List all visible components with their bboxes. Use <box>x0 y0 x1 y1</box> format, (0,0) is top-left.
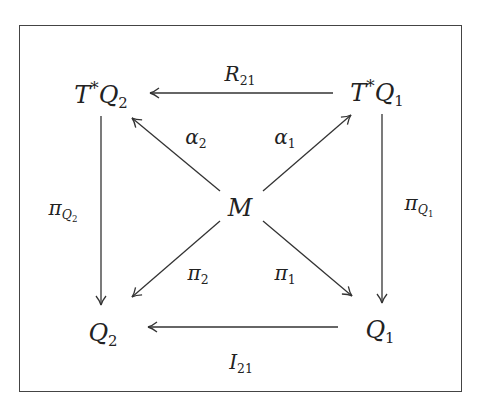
node-M: M <box>228 194 253 222</box>
label-pi2: π2 <box>187 261 208 285</box>
label-alpha1: α1 <box>274 125 295 149</box>
label-R21: R21 <box>225 62 256 86</box>
node-TQ1: T*Q1 <box>350 79 404 107</box>
node-Q1: Q1 <box>365 316 394 344</box>
label-piQ1: πQ1 <box>405 191 434 215</box>
label-pi1: π1 <box>274 261 295 285</box>
label-I21: I21 <box>229 350 253 374</box>
label-piQ2: πQ2 <box>49 196 78 220</box>
arrow-alpha2 <box>132 118 220 191</box>
label-alpha2: α2 <box>185 125 206 149</box>
node-TQ2: T*Q2 <box>74 81 128 109</box>
node-Q2: Q2 <box>88 319 117 347</box>
commutative-diagram: T*Q2 T*Q1 M Q2 Q1 R21 I21 α2 α1 π2 π1 πQ… <box>0 0 478 407</box>
